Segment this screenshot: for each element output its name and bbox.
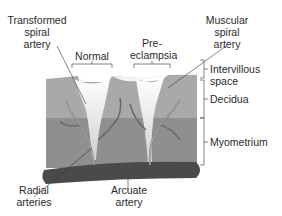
label-normal: Normal [72, 50, 112, 62]
label-decidua: Decidua [210, 93, 270, 105]
label-radial-arteries: Radial arteries [10, 184, 58, 208]
label-transformed-spiral-artery: Transformed spiral artery [6, 14, 68, 50]
decidua-layer [46, 75, 197, 118]
label-intervillous-space: Intervillous space [210, 63, 282, 87]
label-muscular-spiral-artery: Muscular spiral artery [196, 14, 258, 50]
label-preeclampsia: Pre- eclampsia [130, 37, 174, 61]
label-arcuate-artery: Arcuate artery [104, 184, 154, 208]
label-myometrium: Myometrium [210, 136, 280, 148]
